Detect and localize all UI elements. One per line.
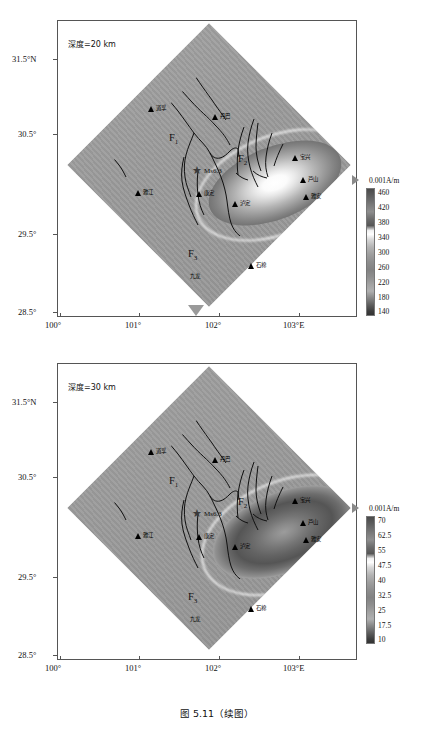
city-marker-danba: 丹巴 [212,457,230,463]
y-tick-label-295: 29.5° [18,572,36,582]
city-triangle-icon [303,537,309,543]
fault-f3-index: 3 [194,597,198,605]
y-tick-mark [53,577,57,578]
colorbar-tick-70: 70 [378,517,386,525]
city-triangle-icon [196,534,202,540]
colorbar-title-20km: 0.001A/m [369,176,399,185]
fault-label-f1: F1 [169,132,178,146]
city-triangle-icon [135,190,141,196]
map-north-marker-icon [188,305,204,316]
x-tick-label-102: 102° [205,320,221,330]
city-label-daofu: 道孚 [156,449,166,454]
colorbar-tick-300: 300 [378,249,389,257]
city-triangle-icon [232,201,238,207]
city-triangle-icon [148,449,154,455]
colorbar-tick-420: 420 [378,204,389,212]
colorbar-tick-460: 460 [378,189,389,197]
colorbar-pointer-icon [352,503,359,513]
city-triangle-icon [300,520,306,526]
colorbar-tick-140: 140 [378,308,389,316]
y-tick-mark [53,402,57,403]
city-marker-kangding: 康定 [196,191,214,197]
city-marker-daofu: 道孚 [148,449,166,455]
x-tick-mark [139,313,140,317]
city-label-luding: 泸定 [240,544,250,549]
earthquake-star-icon: ★ [192,508,202,519]
fault-label-f2: F2 [238,153,247,167]
city-label-shimian: 石棉 [256,606,266,611]
x-tick-label-103e: 103°E [283,663,304,673]
x-tick-mark [60,313,61,317]
x-tick-label-101: 101° [125,320,141,330]
city-label-yaan: 雅安 [311,194,321,199]
city-marker-luding: 泸定 [232,201,250,207]
x-tick-label-100: 100° [45,320,61,330]
city-label-jiulong: 九龙 [190,617,200,622]
city-label-jiulong: 九龙 [190,274,200,279]
colorbar-tick-220: 220 [378,279,389,287]
colorbar-tick-625: 62.5 [378,532,391,540]
city-marker-yajiang: 雅江 [135,190,153,196]
y-tick-mark [53,655,57,656]
city-marker-daofu: 道孚 [148,106,166,112]
city-marker-shimian: 石棉 [248,606,266,612]
x-tick-label-102: 102° [205,663,221,673]
x-tick-mark [139,656,140,660]
city-label-danba: 丹巴 [220,114,230,119]
city-marker-yajiang: 雅江 [135,533,153,539]
x-tick-mark [299,656,300,660]
city-triangle-icon [303,194,309,200]
colorbar-tick-475: 47.5 [378,562,391,570]
y-tick-mark [53,312,57,313]
city-label-lushan: 芦山 [308,520,318,525]
city-label-kangding: 康定 [204,191,214,196]
x-tick-label-100: 100° [45,663,61,673]
colorbar-tick-55: 55 [378,547,386,555]
depth-annotation-20km: 深度=20 km [68,38,116,49]
city-label-baoxing: 宝兴 [300,498,310,503]
y-tick-label-315n: 31.5°N [12,397,36,407]
colorbar-gradient [367,189,374,315]
city-marker-luding: 泸定 [232,544,250,550]
depth-slice-panel-30km: F1 F2 F3 ★ Ms6.3 道孚 丹巴 宝兴 芦山 雅安 雅江 康定 泸定… [0,355,434,690]
city-marker-shimian: 石棉 [248,263,266,269]
y-tick-mark [53,477,57,478]
city-label-yaan: 雅安 [311,537,321,542]
fault-label-f3: F3 [188,591,197,605]
colorbar-tick-380: 380 [378,219,389,227]
colorbar-tick-10: 10 [378,636,386,644]
city-triangle-icon [212,457,218,463]
colorbar-20km [366,188,375,316]
colorbar-tick-175: 17.5 [378,622,391,630]
colorbar-tick-260: 260 [378,264,389,272]
city-marker-kangding: 康定 [196,534,214,540]
x-tick-mark [299,313,300,317]
fault-label-f3: F3 [188,248,197,262]
fault-f1-index: 1 [175,138,179,146]
fault-label-f1: F1 [169,475,178,489]
city-triangle-icon [135,533,141,539]
city-triangle-icon [148,106,154,112]
city-triangle-icon [232,544,238,550]
colorbar-tick-25: 25 [378,607,386,615]
city-triangle-icon [196,191,202,197]
fault-label-f2: F2 [238,496,247,510]
city-triangle-icon [248,263,254,269]
x-tick-mark [219,656,220,660]
city-label-yajiang: 雅江 [143,190,153,195]
earthquake-label: Ms6.3 [204,510,222,518]
y-tick-mark [53,134,57,135]
y-tick-label-295: 29.5° [18,229,36,239]
colorbar-30km [366,516,375,644]
fault-f2-index: 2 [244,502,248,510]
city-triangle-icon [248,606,254,612]
city-marker-baoxing: 宝兴 [292,498,310,504]
x-tick-label-101: 101° [125,663,141,673]
city-marker-jiulong: 九龙 [190,274,200,279]
city-marker-jiulong: 九龙 [190,617,200,622]
city-marker-danba: 丹巴 [212,114,230,120]
city-triangle-icon [212,114,218,120]
city-triangle-icon [300,177,306,183]
city-label-yajiang: 雅江 [143,533,153,538]
city-marker-lushan: 芦山 [300,520,318,526]
